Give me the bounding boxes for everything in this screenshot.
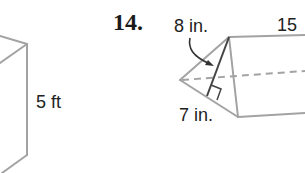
length-label: 15	[277, 15, 297, 35]
height-arrow	[190, 38, 210, 64]
problem-number: 14.	[113, 9, 143, 35]
height-label: 8 in.	[174, 16, 208, 36]
left-height-label: 5 ft	[36, 92, 61, 112]
left-prism-bottom-edge	[2, 155, 27, 173]
left-prism-top-edge	[0, 36, 27, 44]
prism-top-edge	[229, 35, 305, 37]
hidden-back-edge	[182, 71, 305, 80]
right-angle-marker	[211, 85, 221, 100]
prism-bottom-edge	[238, 113, 305, 117]
left-prism-diagonal-edge	[0, 44, 27, 63]
base-label: 7 in.	[179, 105, 213, 125]
geometry-figure: 5 ft 14. 8 in. 7 in. 15	[0, 0, 305, 173]
arrowhead-icon	[205, 60, 214, 66]
left-prism: 5 ft	[0, 36, 61, 173]
triangular-prism: 8 in. 7 in. 15	[174, 15, 305, 125]
